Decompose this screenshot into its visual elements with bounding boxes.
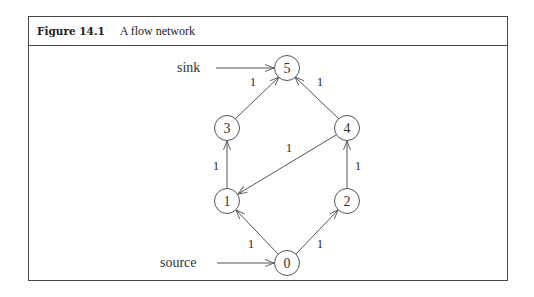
- edge-3-5: [235, 77, 279, 119]
- node-2: 2: [335, 189, 360, 214]
- node-5: 5: [275, 56, 300, 81]
- nodes: 0 1 2 3 4 5: [215, 56, 360, 276]
- capacity-0-1: 1: [248, 236, 255, 251]
- node-4-label: 4: [344, 121, 351, 136]
- node-1: 1: [215, 189, 240, 214]
- capacity-3-5: 1: [250, 74, 257, 89]
- capacity-4-5: 1: [317, 74, 324, 89]
- node-5-label: 5: [284, 61, 291, 76]
- capacity-0-2: 1: [317, 236, 324, 251]
- sink-label: sink: [177, 60, 200, 75]
- capacity-1-3: 1: [213, 158, 220, 173]
- capacity-4-1: 1: [286, 140, 293, 155]
- node-3-label: 3: [224, 121, 231, 136]
- capacity-labels: 1 1 1 1 1 1 1: [213, 74, 362, 251]
- edge-0-1: [236, 210, 278, 254]
- source-label: source: [160, 255, 197, 270]
- capacity-2-4: 1: [355, 158, 362, 173]
- node-1-label: 1: [224, 194, 231, 209]
- node-0-label: 0: [284, 256, 291, 271]
- flow-network-diagram: 1 1 1 1 1 1 1 0 1 2 3 4 5: [0, 0, 534, 297]
- node-0: 0: [275, 251, 300, 276]
- node-4: 4: [335, 116, 360, 141]
- edges: [216, 68, 347, 263]
- node-3: 3: [215, 116, 240, 141]
- node-2-label: 2: [344, 194, 351, 209]
